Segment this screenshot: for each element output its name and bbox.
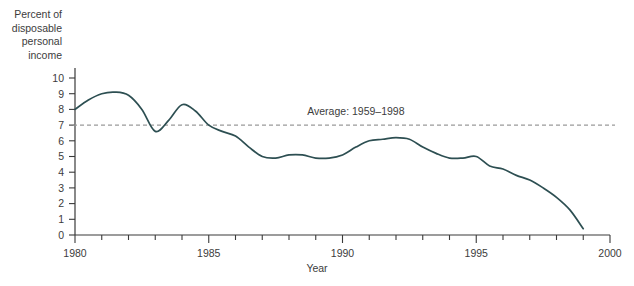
y-axis-ticks: 012345678910 bbox=[52, 72, 75, 241]
y-tick-label: 5 bbox=[58, 150, 64, 162]
x-tick-label: 2000 bbox=[598, 247, 622, 259]
x-tick-label: 1985 bbox=[197, 247, 221, 259]
y-tick-label: 8 bbox=[58, 103, 64, 115]
savings-rate-line-chart: Percent of disposable personal income 01… bbox=[0, 0, 634, 286]
y-tick-label: 4 bbox=[58, 166, 64, 178]
x-tick-label: 1980 bbox=[63, 247, 87, 259]
y-tick-label: 1 bbox=[58, 213, 64, 225]
y-tick-label: 6 bbox=[58, 135, 64, 147]
y-tick-label: 9 bbox=[58, 88, 64, 100]
average-annotation-label: Average: 1959–1998 bbox=[307, 105, 404, 117]
y-tick-label: 0 bbox=[58, 229, 64, 241]
x-tick-label: 1995 bbox=[465, 247, 489, 259]
y-tick-label: 2 bbox=[58, 197, 64, 209]
y-tick-label: 10 bbox=[52, 72, 64, 84]
y-tick-label: 7 bbox=[58, 119, 64, 131]
x-axis-ticks: 19801985199019952000 bbox=[63, 235, 622, 259]
chart-canvas: 012345678910 19801985199019952000 Averag… bbox=[0, 0, 634, 286]
y-tick-label: 3 bbox=[58, 182, 64, 194]
x-tick-label: 1990 bbox=[331, 247, 355, 259]
x-axis-title: Year bbox=[0, 262, 634, 274]
